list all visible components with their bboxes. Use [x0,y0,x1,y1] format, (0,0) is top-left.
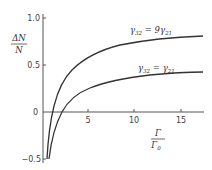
y-label-numerator: ΔN [11,33,26,43]
y-label-denominator: N [14,45,23,55]
chart: 1.0 0.5 0 −0.5 5 10 15 ΔN N Γ Γ0 γ32 = 9… [0,0,212,170]
curve-gamma32-9gamma21 [47,36,203,159]
curve-label-lower: γ32 = γ21 [138,63,175,74]
y-axis-label: ΔN N [11,33,27,55]
x-axis-label: Γ Γ0 [150,128,165,151]
x-tick-label-15: 15 [176,116,186,125]
x-label-denominator: Γ0 [150,140,161,151]
y-tick-label-1: 1.0 [27,14,40,23]
curve-label-upper: γ32 = 9γ21 [130,25,172,36]
x-tick-label-5: 5 [85,116,90,125]
y-tick-label-05: 0.5 [27,61,40,70]
x-tick-label-10: 10 [129,116,139,125]
x-label-numerator: Γ [154,128,162,138]
y-tick-label-m05: −0.5 [22,155,41,164]
y-tick-label-0: 0 [33,108,38,117]
